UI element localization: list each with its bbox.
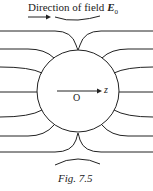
origin-label: O xyxy=(73,92,80,103)
field-line-bottom-wave xyxy=(55,159,100,165)
title-text: Direction of field xyxy=(28,1,107,13)
field-line xyxy=(0,125,54,136)
field-line xyxy=(114,67,153,73)
field-line xyxy=(114,110,153,117)
field-line xyxy=(78,31,153,50)
field-direction-label: Direction of field E0 xyxy=(28,1,118,16)
field-line xyxy=(0,49,54,58)
field-line xyxy=(0,67,42,73)
field-line xyxy=(102,49,153,58)
z-axis-label: z xyxy=(104,84,108,95)
figure-caption: Fig. 7.5 xyxy=(58,172,93,184)
field-line-top-wave xyxy=(55,16,100,20)
field-line xyxy=(0,110,42,117)
field-line xyxy=(0,31,78,50)
field-line xyxy=(102,125,153,136)
field-subscript: 0 xyxy=(114,8,118,16)
